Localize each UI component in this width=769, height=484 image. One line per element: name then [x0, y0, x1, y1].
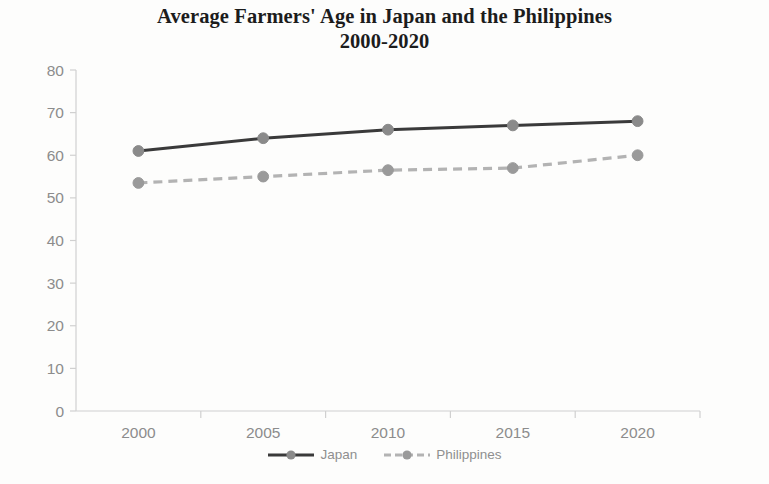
- x-axis-tick-label: 2010: [371, 424, 406, 441]
- chart-figure: Average Farmers' Age in Japan and the Ph…: [0, 0, 769, 484]
- y-axis-tick-label: 10: [47, 360, 65, 377]
- data-point-marker: [632, 116, 643, 127]
- data-point-marker: [632, 150, 643, 161]
- data-point-marker: [133, 146, 144, 157]
- y-axis-tick-label: 80: [47, 62, 65, 79]
- data-point-marker: [507, 120, 518, 131]
- legend-item-philippines[interactable]: Philippines: [383, 447, 501, 462]
- chart-legend: JapanPhilippines: [0, 447, 769, 462]
- legend-swatch-philippines-icon: [383, 448, 431, 462]
- legend-label: Japan: [320, 447, 357, 462]
- y-axis-tick-label: 30: [47, 275, 65, 292]
- data-series-group: [133, 116, 643, 189]
- y-axis-tick-label: 40: [47, 232, 65, 249]
- x-axis: 20002005201020152020: [76, 411, 700, 441]
- data-point-marker: [258, 133, 269, 144]
- data-point-marker: [258, 171, 269, 182]
- y-axis-tick-label: 70: [47, 104, 65, 121]
- legend-item-japan[interactable]: Japan: [267, 447, 357, 462]
- data-point-marker: [383, 124, 394, 135]
- data-point-marker: [383, 165, 394, 176]
- y-axis-tick-label: 60: [47, 147, 65, 164]
- x-axis-tick-label: 2000: [121, 424, 156, 441]
- y-axis-tick-label: 50: [47, 189, 65, 206]
- x-axis-tick-label: 2020: [620, 424, 655, 441]
- data-point-marker: [507, 163, 518, 174]
- data-point-marker: [133, 178, 144, 189]
- legend-swatch-japan-icon: [267, 448, 315, 462]
- x-axis-tick-label: 2015: [496, 424, 530, 441]
- y-axis-tick-label: 0: [55, 403, 64, 420]
- line-chart-plot: 01020304050607080 20002005201020152020: [0, 0, 769, 484]
- y-axis: 01020304050607080: [47, 62, 76, 420]
- legend-label: Philippines: [436, 447, 501, 462]
- x-axis-tick-label: 2005: [246, 424, 280, 441]
- y-axis-tick-label: 20: [47, 317, 65, 334]
